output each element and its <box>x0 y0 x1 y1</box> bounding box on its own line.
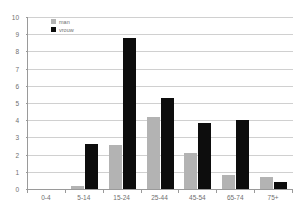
bar-vrouw-65-74 <box>236 120 249 189</box>
x-tick-mark <box>254 189 255 193</box>
y-tick-label: 10 <box>12 14 19 21</box>
bar-man-5-14 <box>71 186 84 189</box>
legend-label: vrouw <box>59 27 74 33</box>
y-tick-label: 5 <box>15 100 19 107</box>
bar-vrouw-75+ <box>274 182 287 189</box>
x-tick-mark <box>65 189 66 193</box>
y-tick-label: 7 <box>15 65 19 72</box>
x-tick-label: 75+ <box>268 194 279 202</box>
bar-chart: 012345678910 0-45-1415-2425-4445-5465-74… <box>0 0 303 218</box>
x-tick-mark <box>178 189 179 193</box>
x-tick-mark <box>27 189 28 193</box>
bar-group <box>27 17 65 189</box>
y-tick-label: 8 <box>15 48 19 55</box>
y-tick-label: 2 <box>15 151 19 158</box>
x-tick-label: 5-14 <box>77 194 90 202</box>
legend-label: man <box>59 19 70 25</box>
legend-swatch-icon <box>51 19 56 24</box>
x-tick-mark <box>141 189 142 193</box>
x-tick-mark <box>216 189 217 193</box>
x-tick-label: 0-4 <box>41 194 50 202</box>
bar-man-65-74 <box>222 175 235 189</box>
bar-group <box>65 17 103 189</box>
bar-group <box>141 17 179 189</box>
y-tick-label: 0 <box>15 186 19 193</box>
bar-vrouw-45-54 <box>198 123 211 189</box>
y-axis: 012345678910 <box>0 17 23 189</box>
x-tick-label: 65-74 <box>227 194 244 202</box>
bar-vrouw-15-24 <box>123 38 136 189</box>
bar-group <box>103 17 141 189</box>
bar-man-25-44 <box>147 117 160 189</box>
legend-swatch-icon <box>51 27 56 32</box>
bar-man-15-24 <box>109 145 122 189</box>
y-tick-label: 1 <box>15 168 19 175</box>
x-axis: 0-45-1415-2425-4445-5465-7475+ <box>27 194 292 210</box>
bar-group <box>178 17 216 189</box>
x-tick-mark <box>292 189 293 193</box>
bar-man-75+ <box>260 177 273 189</box>
bar-vrouw-25-44 <box>161 98 174 189</box>
x-tick-label: 25-44 <box>151 194 168 202</box>
bar-man-45-54 <box>184 153 197 189</box>
bar-group <box>254 17 292 189</box>
chart-legend: manvrouw <box>51 18 97 34</box>
bars-layer <box>27 17 292 189</box>
x-tick-mark <box>103 189 104 193</box>
bar-group <box>216 17 254 189</box>
legend-item-man: man <box>51 18 97 25</box>
x-tick-label: 45-54 <box>189 194 206 202</box>
legend-item-vrouw: vrouw <box>51 26 97 33</box>
x-tick-label: 15-24 <box>113 194 130 202</box>
y-tick-label: 9 <box>15 31 19 38</box>
y-tick-label: 4 <box>15 117 19 124</box>
y-tick-label: 6 <box>15 82 19 89</box>
bar-vrouw-5-14 <box>85 144 98 189</box>
y-tick-label: 3 <box>15 134 19 141</box>
